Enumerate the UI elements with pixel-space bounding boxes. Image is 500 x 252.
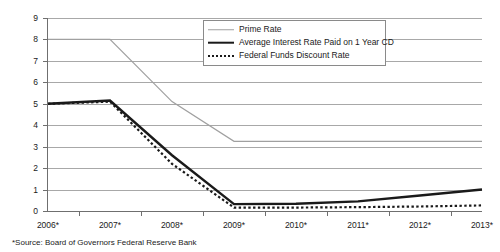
y-axis-tick-label: 6 (33, 77, 38, 87)
legend-swatch-prime-rate-icon (208, 25, 234, 35)
legend-swatch-cd-rate-icon (208, 38, 234, 48)
x-axis-tick (141, 211, 142, 216)
y-axis-labels: 0123456789 (0, 18, 44, 211)
y-axis-tick (43, 39, 47, 40)
legend-label-prime-rate: Prime Rate (239, 24, 282, 35)
x-axis-tick-label: 2008* (161, 220, 183, 230)
legend-item-federal-funds-rate: Federal Funds Discount Rate (208, 49, 381, 62)
y-axis-tick-label: 1 (33, 185, 38, 195)
y-axis-tick-label: 9 (33, 13, 38, 23)
y-axis-tick-label: 7 (33, 56, 38, 66)
x-axis-tick (203, 211, 204, 216)
y-axis-tick-label: 5 (33, 99, 38, 109)
y-axis-tick (43, 168, 47, 169)
source-footnote: *Source: Board of Governors Federal Rese… (12, 238, 197, 247)
x-axis-tick-label: 2010* (285, 220, 307, 230)
x-axis-tick (265, 211, 266, 216)
x-axis-tick-label: 2011* (347, 220, 369, 230)
chart-legend: Prime Rate Average Interest Rate Paid on… (203, 20, 386, 66)
y-axis-tick (43, 211, 47, 212)
y-axis-tick-label: 3 (33, 142, 38, 152)
y-axis-tick-label: 8 (33, 34, 38, 44)
x-axis-tick (451, 211, 452, 216)
y-axis (47, 18, 48, 211)
legend-item-prime-rate: Prime Rate (208, 23, 381, 36)
y-axis-tick (43, 125, 47, 126)
x-axis-tick-label: 2007* (99, 220, 121, 230)
y-axis-tick (43, 104, 47, 105)
x-axis-tick-label: 2012* (409, 220, 431, 230)
x-axis-tick-label: 2013* (471, 220, 493, 230)
interest-rate-line-chart: 0123456789 2006*2007*2008*2009*2010*2011… (0, 0, 500, 252)
legend-label-federal-funds-rate: Federal Funds Discount Rate (239, 50, 350, 61)
legend-label-cd-rate: Average Interest Rate Paid on 1 Year CD (239, 37, 394, 48)
x-axis-tick-label: 2006* (37, 220, 59, 230)
y-axis-tick (43, 190, 47, 191)
x-axis-tick-label: 2009* (223, 220, 245, 230)
y-axis-tick (43, 82, 47, 83)
y-axis-tick-label: 2 (33, 163, 38, 173)
y-axis-tick (43, 147, 47, 148)
legend-swatch-federal-funds-rate-icon (208, 51, 234, 61)
line-cd-rate (48, 101, 482, 205)
x-axis-tick (79, 211, 80, 216)
x-axis-tick (389, 211, 390, 216)
y-axis-tick (43, 18, 47, 19)
x-axis-tick (327, 211, 328, 216)
legend-item-cd-rate: Average Interest Rate Paid on 1 Year CD (208, 36, 381, 49)
y-axis-tick-label: 4 (33, 120, 38, 130)
line-federal-funds-rate (48, 102, 482, 208)
y-axis-tick-label: 0 (33, 206, 38, 216)
y-axis-tick (43, 61, 47, 62)
